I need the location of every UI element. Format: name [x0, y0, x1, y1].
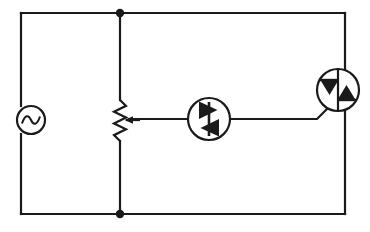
bottom-junction-dot [116, 210, 124, 218]
potentiometer-zigzag [114, 100, 126, 141]
top-junction-dot [116, 9, 124, 17]
ac-source-symbol [17, 106, 45, 134]
schematic-canvas: AC phase-control circuit: AC source, pot… [0, 0, 370, 232]
diac-symbol [188, 98, 230, 140]
potentiometer-symbol [114, 100, 140, 141]
triac-symbol [317, 69, 359, 111]
circuit-diagram: AC phase-control circuit: AC source, pot… [0, 0, 370, 232]
wiring-group [21, 13, 345, 214]
